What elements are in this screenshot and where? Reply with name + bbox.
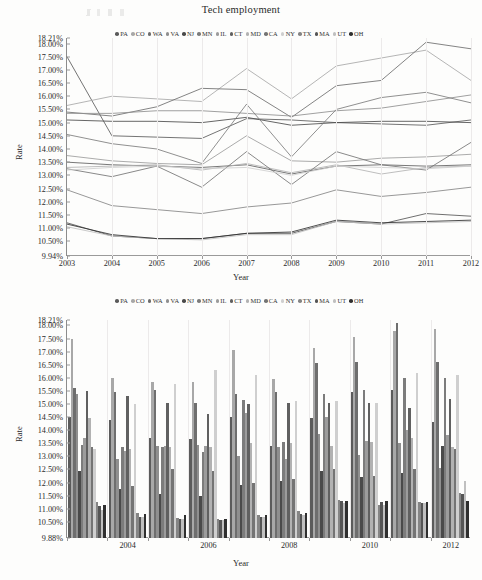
line-chart-legend: PACOWAVANJMNILCTMDCANYTXMAUTOH — [0, 31, 482, 37]
bar-legend-item-va[interactable]: VA — [166, 298, 179, 304]
gridline — [336, 38, 337, 256]
bar-oh-2005 — [184, 515, 187, 538]
bar-legend-item-tx[interactable]: TX — [298, 298, 311, 304]
bar-x-tick-mark — [188, 538, 189, 541]
bar-y-tick-mark — [67, 495, 70, 496]
bar-x-tick-mark — [148, 538, 149, 541]
gridline — [471, 38, 472, 256]
legend-label: NY — [286, 298, 295, 304]
line-y-tick-mark — [67, 69, 70, 70]
legend-marker-icon — [148, 32, 152, 36]
bar-y-tick-mark — [67, 430, 70, 431]
line-plot-area: 2003200420052006200720082009201020112012… — [66, 38, 470, 256]
bar-x-tick-label: 2004 — [119, 538, 135, 550]
bar-y-tick-mark — [67, 482, 70, 483]
line-legend-item-pa[interactable]: PA — [115, 31, 127, 37]
gridline — [157, 38, 158, 256]
line-series-ny — [67, 166, 471, 175]
legend-marker-icon — [349, 299, 353, 303]
legend-label: PA — [120, 31, 128, 37]
bar-legend-item-ma[interactable]: MA — [315, 298, 330, 304]
line-x-tick-mark — [381, 256, 382, 259]
line-x-tick-mark — [336, 256, 337, 259]
line-legend-item-nj[interactable]: NJ — [182, 31, 194, 37]
line-legend-item-ct[interactable]: CT — [230, 31, 243, 37]
bar-group-2011 — [389, 320, 429, 538]
bar-ny-2007 — [255, 375, 258, 538]
bar-legend-item-ca[interactable]: CA — [264, 298, 278, 304]
bar-legend-item-mn[interactable]: MN — [197, 298, 212, 304]
line-y-tick-label: 12.00% — [38, 197, 67, 206]
legend-marker-icon — [115, 299, 119, 303]
legend-marker-icon — [315, 299, 319, 303]
legend-label: MA — [319, 31, 329, 37]
line-legend-item-ca[interactable]: CA — [264, 31, 278, 37]
bar-legend-item-ny[interactable]: NY — [281, 298, 295, 304]
bar-legend-item-wa[interactable]: WA — [148, 298, 163, 304]
line-y-tick-label: 17.00% — [38, 65, 67, 74]
bar-y-tick-mark — [67, 320, 70, 321]
line-legend-item-md[interactable]: MD — [246, 31, 261, 37]
gridline — [269, 320, 270, 538]
legend-marker-icon — [349, 32, 353, 36]
gridline — [390, 320, 391, 538]
bar-y-tick-mark — [67, 508, 70, 509]
bar-oh-2006 — [224, 519, 227, 538]
bar-legend-item-co[interactable]: CO — [131, 298, 145, 304]
line-y-tick-mark — [67, 135, 70, 136]
line-x-tick-mark — [471, 256, 472, 259]
bar-legend-item-pa[interactable]: PA — [115, 298, 127, 304]
bar-legend-item-md[interactable]: MD — [246, 298, 261, 304]
line-chart-panel: Tech employment PACOWAVANJMNILCTMDCANYTX… — [0, 0, 482, 292]
legend-label: CT — [234, 31, 242, 37]
legend-marker-icon — [148, 299, 152, 303]
legend-marker-icon — [281, 32, 285, 36]
gridline — [309, 320, 310, 538]
gridline — [247, 38, 248, 256]
line-y-tick-mark — [67, 38, 70, 39]
line-y-tick-mark — [67, 83, 70, 84]
line-y-tick-label: 13.00% — [38, 171, 67, 180]
bar-x-tick-mark — [350, 538, 351, 541]
bar-x-tick-label: 2012 — [443, 538, 459, 550]
line-legend-item-mn[interactable]: MN — [197, 31, 212, 37]
line-x-tick-mark — [426, 256, 427, 259]
gridline — [188, 320, 189, 538]
legend-marker-icon — [315, 32, 319, 36]
bar-oh-2008 — [305, 513, 308, 538]
line-y-tick-label: 18.00% — [38, 39, 67, 48]
line-y-tick-mark — [67, 241, 70, 242]
line-legend-item-ny[interactable]: NY — [281, 31, 295, 37]
legend-marker-icon — [264, 32, 268, 36]
bar-legend-item-ut[interactable]: UT — [333, 298, 346, 304]
bar-legend-item-oh[interactable]: OH — [349, 298, 363, 304]
line-legend-item-va[interactable]: VA — [166, 31, 179, 37]
legend-label: MN — [202, 298, 212, 304]
bar-group-2005 — [148, 320, 188, 538]
legend-label: CA — [269, 31, 278, 37]
line-legend-item-ma[interactable]: MA — [315, 31, 330, 37]
line-series-wa — [67, 42, 471, 117]
gridline — [426, 38, 427, 256]
legend-marker-icon — [182, 299, 186, 303]
x-axis-title-line: Year — [0, 272, 482, 282]
line-legend-item-wa[interactable]: WA — [148, 31, 163, 37]
bar-x-tick-mark — [107, 538, 108, 541]
gridline — [202, 38, 203, 256]
line-legend-item-co[interactable]: CO — [131, 31, 145, 37]
line-legend-item-ut[interactable]: UT — [333, 31, 346, 37]
legend-label: UT — [338, 31, 347, 37]
line-legend-item-oh[interactable]: OH — [349, 31, 363, 37]
line-y-tick-label: 16.50% — [38, 79, 67, 88]
line-y-tick-mark — [67, 228, 70, 229]
line-legend-item-tx[interactable]: TX — [298, 31, 311, 37]
bar-ny-2006 — [214, 370, 217, 538]
bar-y-tick-label: 11.50% — [38, 491, 67, 500]
bar-y-tick-mark — [67, 364, 70, 365]
line-legend-item-il[interactable]: IL — [216, 31, 227, 37]
legend-marker-icon — [216, 32, 220, 36]
bar-legend-item-nj[interactable]: NJ — [182, 298, 194, 304]
bar-legend-item-ct[interactable]: CT — [230, 298, 243, 304]
bar-group-2008 — [268, 320, 308, 538]
bar-legend-item-il[interactable]: IL — [216, 298, 227, 304]
